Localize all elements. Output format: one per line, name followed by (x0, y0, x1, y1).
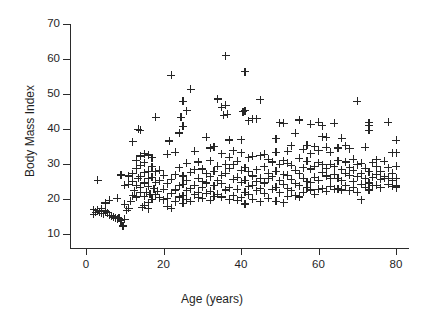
data-point (190, 190, 199, 199)
x-tick-label-0: 0 (66, 259, 106, 271)
y-tick-30 (63, 164, 70, 165)
data-point (175, 181, 184, 190)
data-point (140, 192, 149, 201)
data-point (171, 197, 180, 206)
data-point (388, 176, 397, 185)
data-point (136, 188, 145, 197)
data-point (349, 177, 358, 186)
data-point (105, 196, 114, 205)
data-point (167, 204, 176, 213)
data-point (384, 174, 393, 183)
data-point (233, 157, 242, 166)
data-point (163, 150, 172, 159)
data-point (314, 176, 323, 185)
data-point (322, 164, 331, 173)
data-point (299, 174, 308, 183)
data-point (310, 162, 319, 171)
data-point (140, 158, 149, 167)
data-point (275, 176, 284, 185)
data-point (229, 146, 238, 155)
data-point (147, 195, 156, 204)
data-point (101, 198, 110, 207)
data-point (345, 144, 354, 153)
data-point (244, 116, 253, 125)
data-point (248, 195, 257, 204)
data-point (186, 197, 195, 206)
data-point (159, 171, 168, 180)
data-point (225, 153, 234, 162)
data-point (213, 176, 222, 185)
data-point (118, 221, 127, 230)
data-point (380, 157, 389, 166)
data-point (91, 208, 100, 217)
data-point (103, 208, 112, 217)
data-point (151, 167, 160, 176)
data-point (333, 143, 342, 152)
data-point (206, 196, 215, 205)
data-point (209, 192, 218, 201)
data-point (198, 164, 207, 173)
data-point (271, 183, 280, 192)
data-point (353, 172, 362, 181)
data-point (337, 165, 346, 174)
data-point (337, 185, 346, 194)
y-tick-40 (63, 129, 70, 130)
x-tick-40 (241, 248, 242, 255)
data-point (233, 185, 242, 194)
data-point (364, 118, 373, 127)
data-point (349, 166, 358, 175)
data-point (165, 136, 174, 145)
data-point (128, 137, 137, 146)
data-point (326, 148, 335, 157)
data-point (271, 134, 280, 143)
data-point (333, 184, 342, 193)
data-point (244, 190, 253, 199)
data-point (333, 156, 342, 165)
data-point (283, 184, 292, 193)
data-point (186, 85, 195, 94)
data-point (209, 142, 218, 151)
data-point (113, 194, 122, 203)
data-point (376, 175, 385, 184)
data-point (229, 175, 238, 184)
data-point (252, 177, 261, 186)
data-point (140, 201, 149, 210)
data-point (333, 174, 342, 183)
data-point (306, 120, 315, 129)
data-point (364, 178, 373, 187)
data-point (264, 174, 273, 183)
data-point (178, 180, 187, 189)
data-point (330, 170, 339, 179)
data-point (134, 174, 143, 183)
data-point (198, 194, 207, 203)
data-point (140, 168, 149, 177)
data-point (341, 181, 350, 190)
data-point (322, 133, 331, 142)
data-point (144, 167, 153, 176)
data-point (167, 189, 176, 198)
data-point (299, 188, 308, 197)
data-point (260, 178, 269, 187)
y-tick-10 (63, 234, 70, 235)
data-point (101, 206, 110, 215)
data-point (337, 176, 346, 185)
data-point (275, 188, 284, 197)
data-point (124, 180, 133, 189)
data-point (217, 171, 226, 180)
data-point (275, 118, 284, 127)
data-point (392, 148, 401, 157)
data-point (268, 185, 277, 194)
data-point (198, 183, 207, 192)
data-point (95, 207, 104, 216)
data-point (194, 157, 203, 166)
data-point (206, 187, 215, 196)
x-tick-60 (319, 248, 320, 255)
data-point (279, 198, 288, 207)
data-point (322, 143, 331, 152)
data-point (345, 171, 354, 180)
data-point (147, 162, 156, 171)
data-point (144, 174, 153, 183)
data-point (287, 161, 296, 170)
data-point (264, 169, 273, 178)
data-point (326, 174, 335, 183)
